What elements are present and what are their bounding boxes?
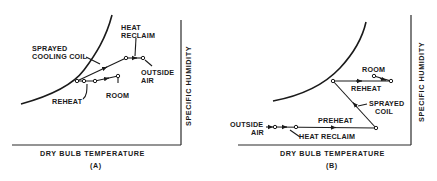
state-point-a1 xyxy=(75,79,78,82)
heat-reclaim-point-b xyxy=(294,125,297,128)
label-reclaim-a: RECLAIM xyxy=(121,31,155,40)
caption-b: (B) xyxy=(326,161,338,170)
label-air-a: AIR xyxy=(141,76,155,85)
preheat-point-b xyxy=(374,126,377,129)
panel-a: HEAT RECLAIM SPRAYED COOLING COIL OUTSID… xyxy=(12,15,193,170)
label-air-b: AIR xyxy=(251,128,265,137)
room-point-a xyxy=(116,74,119,77)
x-axis-label-a: DRY BULB TEMPERATURE xyxy=(40,149,145,158)
y-axis-label-a: SPECIFIC HUMIDITY xyxy=(184,46,193,126)
state-point-a2 xyxy=(82,79,85,82)
label-preheat-b: PREHEAT xyxy=(318,116,354,125)
label-coil-b: COIL xyxy=(375,107,393,116)
psychrometric-diagram: HEAT RECLAIM SPRAYED COOLING COIL OUTSID… xyxy=(0,0,437,181)
preheat-line-b xyxy=(275,127,376,128)
caption-a: (A) xyxy=(90,161,102,170)
label-reheat-a: REHEAT xyxy=(52,97,83,106)
outside-air-point-a xyxy=(141,56,144,59)
label-room-a: ROOM xyxy=(106,91,129,100)
arrow-a1 xyxy=(104,67,107,68)
leader-sprayed-coil-b xyxy=(358,104,367,106)
room-line-b xyxy=(374,76,391,81)
panel-b: ROOM REHEAT SPRAYED COIL PREHEAT OUTSIDE… xyxy=(230,15,426,170)
label-heat-reclaim-b: HEAT RECLAIM xyxy=(299,132,355,141)
leader-heat-reclaim-a xyxy=(135,38,136,56)
leader-outside-air-a xyxy=(145,60,152,66)
state-point-a4 xyxy=(124,56,127,59)
arrow-sprayed-coil-b xyxy=(353,103,357,107)
room-point-b xyxy=(372,74,375,77)
arrow-a3 xyxy=(104,78,109,79)
x-axis-label-b: DRY BULB TEMPERATURE xyxy=(280,149,385,158)
label-room-b: ROOM xyxy=(362,65,385,74)
label-reheat-b: REHEAT xyxy=(351,84,382,93)
label-cooling-coil-a: COOLING COIL xyxy=(32,52,88,61)
leader-reheat-a xyxy=(83,84,87,99)
coil-leaving-point-b xyxy=(331,79,334,82)
outside-air-point-b xyxy=(273,125,276,128)
state-point-a3 xyxy=(93,79,96,82)
y-axis-label-b: SPECIFIC HUMIDITY xyxy=(417,42,426,122)
supply-point-b xyxy=(389,79,392,82)
